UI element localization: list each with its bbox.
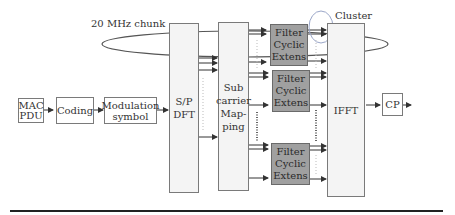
mac-pdu-block: MAC PDU	[18, 98, 44, 123]
bottom-rule	[10, 210, 443, 212]
modulation-line2: symbol	[113, 111, 149, 122]
filter-block-2: Filter Cyclic Extens	[272, 70, 310, 112]
cp-label: CP	[385, 99, 399, 110]
coding-label: Coding	[57, 105, 93, 116]
cp-block: CP	[382, 93, 403, 116]
sp-dft-line2: DFT	[173, 108, 195, 121]
filter-2-line3: Extens	[274, 97, 308, 109]
sp-dft-block: S/P DFT	[169, 23, 199, 193]
filter-3-line2: Cyclic	[275, 158, 306, 170]
filter-1-line1: Filter	[275, 27, 303, 39]
modulation-line1: Modulation	[102, 100, 160, 111]
mac-pdu-line1: MAC	[18, 101, 43, 111]
ifft-block: IFFT	[327, 23, 365, 197]
sp-dft-line1: S/P	[176, 95, 193, 108]
subcarrier-line2: carrier	[216, 94, 251, 107]
subcarrier-line1: Sub	[224, 81, 244, 94]
filter-1-line2: Cyclic	[274, 39, 305, 51]
chunk-label: 20 MHz chunk	[91, 18, 165, 29]
subcarrier-line3: Map-	[221, 107, 247, 120]
ifft-label: IFFT	[334, 104, 359, 117]
subcarrier-mapping-block: Sub carrier Map- ping	[218, 22, 249, 191]
filter-block-1: Filter Cyclic Extens	[270, 24, 308, 66]
subcarrier-line4: ping	[222, 120, 244, 133]
filter-1-line3: Extens	[272, 51, 306, 63]
cluster-label: Cluster	[335, 10, 372, 21]
mac-pdu-line2: PDU	[19, 111, 42, 121]
filter-block-3: Filter Cyclic Extens	[271, 143, 310, 185]
modulation-block: Modulation symbol	[104, 97, 157, 124]
filter-2-line1: Filter	[277, 73, 305, 85]
filter-2-line2: Cyclic	[276, 85, 307, 97]
filter-3-line1: Filter	[276, 146, 304, 158]
filter-3-line3: Extens	[273, 170, 307, 182]
coding-block: Coding	[56, 97, 94, 124]
